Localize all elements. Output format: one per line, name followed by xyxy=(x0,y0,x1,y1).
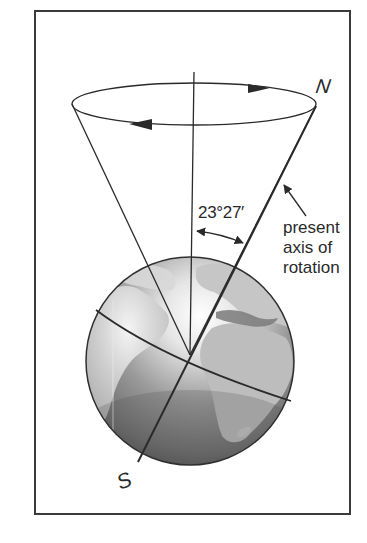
tilt-angle-arc xyxy=(197,231,243,243)
rotation-arrow-top-icon xyxy=(248,84,270,93)
axis-pointer-arrow xyxy=(284,185,306,216)
axis-label-line-1: present xyxy=(283,218,340,238)
tilt-angle-label: 23°27′ xyxy=(198,204,244,221)
axis-label-line-2: axis of xyxy=(283,238,340,258)
axis-label: present axis of rotation xyxy=(283,218,340,278)
axis-label-line-3: rotation xyxy=(283,258,340,278)
precession-diagram: N S 23°27′ present axis of rotation xyxy=(0,0,367,543)
globe xyxy=(80,257,300,470)
north-pole-label: N xyxy=(315,76,332,96)
rotation-arrow-bottom-icon xyxy=(129,119,152,130)
